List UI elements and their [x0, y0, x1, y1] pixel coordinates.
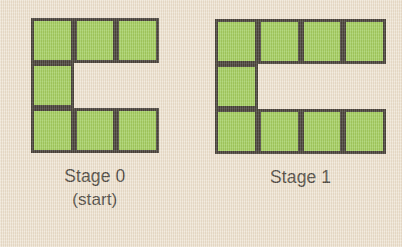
- unit-square: [343, 109, 386, 154]
- unit-square: [301, 19, 344, 64]
- unit-square: [258, 109, 301, 154]
- empty-cell: [258, 64, 301, 109]
- stage-group-0: Stage 0(start): [31, 18, 159, 153]
- unit-square: [258, 19, 301, 64]
- unit-square: [116, 108, 159, 153]
- unit-square: [215, 64, 258, 109]
- unit-square: [31, 18, 74, 63]
- stage-0-grid: [31, 18, 159, 153]
- stage-1-grid: [215, 19, 386, 154]
- unit-square: [215, 19, 258, 64]
- unit-square: [74, 108, 117, 153]
- empty-cell: [343, 64, 386, 109]
- unit-square: [116, 18, 159, 63]
- empty-cell: [74, 63, 117, 108]
- stage-group-1: Stage 1: [215, 19, 386, 154]
- unit-square: [31, 108, 74, 153]
- unit-square: [31, 63, 74, 108]
- stage-0-label: Stage 0: [64, 166, 125, 186]
- unit-square: [74, 18, 117, 63]
- unit-square: [301, 109, 344, 154]
- stage-1-caption: Stage 1: [215, 166, 386, 189]
- empty-cell: [116, 63, 159, 108]
- unit-square: [215, 109, 258, 154]
- stage-figure: Stage 0(start)Stage 1: [0, 0, 402, 247]
- stage-0-caption: Stage 0(start): [31, 165, 159, 212]
- stage-1-label: Stage 1: [270, 167, 331, 187]
- unit-square: [343, 19, 386, 64]
- stage-0-sublabel: (start): [31, 188, 159, 212]
- empty-cell: [301, 64, 344, 109]
